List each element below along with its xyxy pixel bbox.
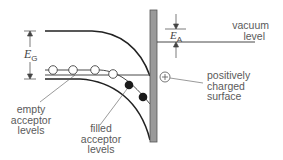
electron-affinity-symbol-sub: A [177, 35, 182, 44]
filled-acceptor-circle [125, 81, 134, 90]
empty-acceptor-circle [91, 66, 100, 75]
empty-acceptor-circle [109, 70, 118, 79]
filled-acceptor-leader [100, 89, 127, 125]
vacuum-level-label: vacuum level [227, 20, 269, 41]
empty-acceptor-label: empty acceptor levels [8, 104, 54, 136]
positive-surface-leader [170, 78, 203, 83]
filled-acceptor-label: filled acceptor levels [78, 123, 124, 155]
empty-acceptor-label-line: empty [8, 104, 54, 115]
empty-acceptor-circle [69, 66, 78, 75]
positive-surface-label-line: surface [207, 91, 250, 102]
empty-acceptor-circles [49, 66, 118, 79]
empty-acceptor-label-line: levels [8, 125, 54, 136]
electron-affinity-symbol: EA [170, 29, 182, 44]
band-gap-symbol: EG [24, 47, 38, 63]
vacuum-level-label-line: vacuum [227, 20, 269, 31]
positive-surface-label-line: positively [207, 70, 250, 81]
positive-surface-label: positively charged surface [207, 70, 250, 102]
filled-acceptor-label-line: levels [78, 144, 124, 155]
empty-acceptor-circle [49, 66, 58, 75]
filled-acceptor-circles [125, 81, 148, 102]
band-gap-symbol-sub: G [31, 54, 37, 63]
filled-acceptor-circle [139, 93, 148, 102]
electron-affinity-symbol-main: E [170, 29, 177, 41]
vacuum-level-label-line: level [227, 31, 269, 42]
surface-bar [150, 10, 157, 142]
filled-acceptor-label-line: filled [78, 123, 124, 134]
